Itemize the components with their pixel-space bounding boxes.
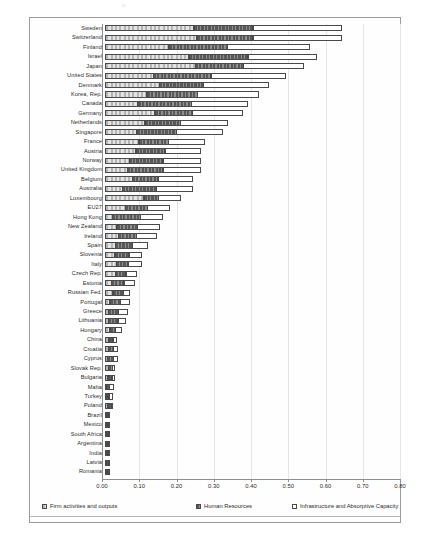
bar-segment-0 [105,242,116,248]
bar-segment-2 [147,205,170,211]
chart-frame: SwedenSwitzerlandFinlandIsraelJapanUnite… [29,17,401,523]
bar-segment-0 [105,129,138,135]
bar-segment-1 [118,233,137,239]
category-label: Ireland [30,234,105,240]
bar-track [105,62,400,71]
bar-segment-0 [105,224,118,230]
category-label: Estonia [30,281,105,287]
stacked-bar [105,63,348,69]
bar-segment-2 [108,431,110,437]
bar-segment-1 [115,271,126,277]
stacked-bar [105,91,319,97]
bar-track [105,232,400,241]
bar-segment-1 [197,35,253,41]
bar-segment-0 [105,186,123,192]
stacked-bar [105,356,171,362]
bar-segment-1 [117,224,138,230]
chart-row: Poland [30,402,400,411]
chart-row: Japan [30,62,400,71]
bar-segment-0 [105,205,126,211]
chart-row: Netherlands [30,118,400,127]
bar-segment-2 [113,346,118,352]
bar-segment-2 [128,261,143,267]
bar-track [105,269,400,278]
bar-segment-1 [127,167,163,173]
bar-segment-0 [105,110,156,116]
bar-track [105,24,400,33]
legend-label-0: Firm activities and outputs [50,503,117,509]
bar-segment-2 [211,73,287,79]
bar-segment-2 [197,91,258,97]
bar-segment-1 [108,318,118,324]
bar-track [105,194,400,203]
chart-row: Estonia [30,279,400,288]
bar-track [105,81,400,90]
chart-row: Turkey [30,392,400,401]
chart-row: Italy [30,260,400,269]
bar-track [105,326,400,335]
category-label: Romania [30,469,105,475]
chart-row: EU27 [30,203,400,212]
stacked-bar [105,129,293,135]
legend-item-firm-activities: Firm activities and outputs [42,503,117,509]
bar-segment-2 [158,195,181,201]
bar-segment-1 [138,101,192,107]
category-label: Latvia [30,460,105,466]
stacked-bar [105,101,312,107]
bar-segment-2 [192,110,243,116]
chart-row: Spain [30,241,400,250]
axis-tick-label: 0.10 [134,483,145,489]
bar-segment-2 [243,63,304,69]
legend-swatch-icon-1 [196,504,201,509]
bar-segment-2 [108,450,110,456]
bar-segment-2 [253,25,343,31]
chart-row: Croatia [30,345,400,354]
category-label: Croatia [30,347,105,353]
chart-row: Israel [30,52,400,61]
bar-track [105,184,400,193]
stacked-bar [105,299,194,305]
stacked-bar [105,186,267,192]
bar-track [105,260,400,269]
chart-row: Australia [30,184,400,193]
bar-track [105,241,400,250]
axis-tick-label: 0.80 [394,483,405,489]
bar-segment-0 [105,158,130,164]
stacked-bar [105,384,160,390]
chart-row: Cyprus [30,354,400,363]
stacked-bar [105,120,297,126]
bar-segment-1 [144,195,159,201]
category-label: Cyprus [30,356,105,362]
bar-segment-2 [109,393,113,399]
bar-segment-2 [120,299,130,305]
chart-row: Russian Fed. [30,288,400,297]
bar-segment-1 [112,214,140,220]
bar-segment-2 [124,280,135,286]
bar-segment-0 [105,120,146,126]
stacked-bar [105,176,267,182]
category-label: Mexico [30,422,105,428]
chart-row: Luxembourg [30,194,400,203]
chart-row: Slovenia [30,251,400,260]
bar-segment-1 [125,205,148,211]
chart-row: Belgium [30,175,400,184]
chart-plot-area: SwedenSwitzerlandFinlandIsraelJapanUnite… [30,24,400,479]
axis-tick-label: 0.30 [208,483,219,489]
bar-segment-2 [176,129,223,135]
bar-segment-1 [153,73,211,79]
bar-track [105,439,400,448]
chart-row: Switzerland [30,33,400,42]
chart-row: Czech Rep. [30,269,400,278]
bar-segment-2 [118,309,128,315]
stacked-bar [105,110,308,116]
bar-segment-2 [253,35,343,41]
category-label: China [30,337,105,343]
bar-segment-2 [112,365,115,371]
bar-segment-2 [123,290,130,296]
bar-segment-2 [109,384,114,390]
bar-track [105,109,400,118]
bar-track [105,383,400,392]
stacked-bar [105,252,212,258]
chart-row: Canada [30,100,400,109]
bar-segment-0 [105,35,198,41]
